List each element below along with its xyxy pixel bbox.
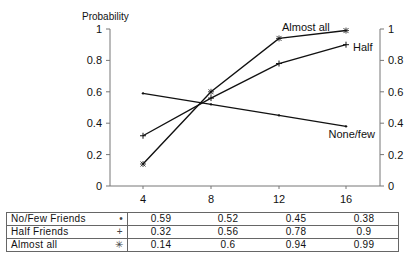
marker-icon: + (107, 226, 128, 239)
y2-tick-label: 0.6 (388, 86, 403, 98)
x-tick-label: 12 (273, 193, 285, 205)
row-label: Half Friends (7, 226, 108, 239)
y2-tick-label: 0.2 (388, 149, 403, 161)
table-row: Almost all✳0.140.60.940.99 (7, 239, 399, 252)
table-cell: 0.56 (194, 226, 262, 239)
y2-tick-label: 1 (388, 23, 394, 35)
table-cell: 0.78 (262, 226, 330, 239)
marker-icon: ✳ (107, 239, 128, 252)
y2-tick-label: 0 (388, 180, 394, 192)
table-cell: 0.6 (194, 239, 262, 252)
x-tick-label: 16 (340, 193, 352, 205)
table-cell: 0.9 (330, 226, 399, 239)
y-tick-label: 0 (96, 180, 102, 192)
data-table: No/Few Friends•0.590.520.450.38Half Frie… (6, 212, 399, 252)
y2-tick-label: 0.8 (388, 54, 403, 66)
y-tick-label: 0.8 (87, 54, 102, 66)
y-axis-label: Probability (82, 11, 129, 22)
table-row: Half Friends+0.320.560.780.9 (7, 226, 399, 239)
table-cell: 0.94 (262, 239, 330, 252)
series-line-label: None/few (329, 128, 376, 140)
y-tick-label: 0.6 (87, 86, 102, 98)
y-tick-label: 0.2 (87, 149, 102, 161)
table-cell: 0.45 (262, 213, 330, 226)
series-line (143, 45, 346, 136)
y2-tick-label: 0.4 (388, 117, 403, 129)
x-tick-label: 4 (140, 193, 146, 205)
y-tick-label: 0.4 (87, 117, 102, 129)
line-chart: 000.20.20.40.40.60.60.80.811481216Probab… (0, 0, 415, 212)
table-cell: 0.14 (128, 239, 195, 252)
x-tick-label: 8 (208, 193, 214, 205)
series-line-label: Almost all (282, 21, 330, 33)
table-cell: 0.32 (128, 226, 195, 239)
table-cell: 0.52 (194, 213, 262, 226)
series-line-label: Half (353, 41, 374, 53)
table-row: No/Few Friends•0.590.520.450.38 (7, 213, 399, 226)
series-line (143, 93, 346, 126)
table-cell: 0.38 (330, 213, 399, 226)
row-label: No/Few Friends (7, 213, 108, 226)
row-label: Almost all (7, 239, 108, 252)
table-cell: 0.99 (330, 239, 399, 252)
series-line (143, 31, 346, 164)
y-tick-label: 1 (96, 23, 102, 35)
table-cell: 0.59 (128, 213, 195, 226)
marker-icon: • (107, 213, 128, 226)
